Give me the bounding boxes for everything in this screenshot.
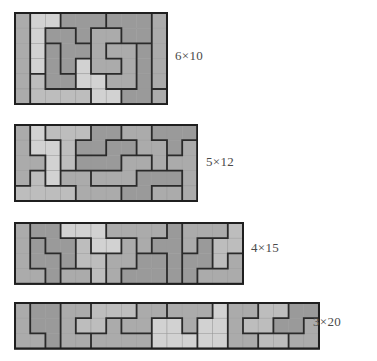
- tile-cell: [182, 318, 197, 333]
- tile-cell: [197, 253, 212, 268]
- tile-cell: [137, 140, 152, 155]
- tile-cell: [167, 303, 182, 318]
- tile-cell: [76, 253, 91, 268]
- tile-cell: [15, 269, 30, 284]
- tile-cell: [152, 13, 167, 28]
- tile-cell: [137, 333, 152, 348]
- tile-cell: [76, 59, 91, 74]
- tile-cell: [30, 125, 45, 140]
- tile-cell: [91, 59, 106, 74]
- tile-cell: [167, 238, 182, 253]
- tile-cell: [61, 13, 76, 28]
- tile-cell: [91, 333, 106, 348]
- tile-cell: [121, 13, 136, 28]
- tile-cell: [152, 303, 167, 318]
- tiling-size-label: 3×20: [313, 315, 341, 328]
- tile-cell: [76, 155, 91, 170]
- tile-cell: [45, 140, 60, 155]
- tile-cell: [91, 171, 106, 186]
- tile-cell: [106, 223, 121, 238]
- tiling-grid-3x20: [14, 302, 320, 350]
- tile-cell: [30, 223, 45, 238]
- tile-cell: [121, 43, 136, 58]
- tile-cell: [228, 333, 243, 348]
- tile-cell: [15, 13, 30, 28]
- tile-cell: [243, 318, 258, 333]
- tile-cell: [106, 125, 121, 140]
- tile-cell: [61, 318, 76, 333]
- tile-cell: [152, 74, 167, 89]
- tile-cell: [91, 238, 106, 253]
- tile-cell: [182, 238, 197, 253]
- tile-cell: [45, 43, 60, 58]
- tile-cell: [76, 89, 91, 104]
- tiling-grid-4x15: [14, 222, 244, 285]
- tile-cell: [182, 171, 197, 186]
- tile-cell: [121, 186, 136, 201]
- tile-cell: [137, 125, 152, 140]
- tile-cell: [182, 303, 197, 318]
- tile-cell: [106, 186, 121, 201]
- tile-cell: [106, 171, 121, 186]
- tile-cell: [15, 318, 30, 333]
- tile-cell: [76, 269, 91, 284]
- tile-cell: [15, 155, 30, 170]
- tile-cell: [61, 155, 76, 170]
- tile-cell: [137, 74, 152, 89]
- tile-cell: [182, 125, 197, 140]
- tile-cell: [121, 74, 136, 89]
- tile-cell: [228, 269, 243, 284]
- tile-cell: [152, 140, 167, 155]
- tile-cell: [258, 318, 273, 333]
- tile-cell: [228, 253, 243, 268]
- tile-cell: [152, 43, 167, 58]
- tile-cell: [182, 333, 197, 348]
- tile-cell: [91, 125, 106, 140]
- tile-cell: [137, 318, 152, 333]
- tile-cell: [91, 318, 106, 333]
- tile-cell: [15, 171, 30, 186]
- tile-cell: [273, 333, 288, 348]
- tile-cell: [121, 171, 136, 186]
- tile-cell: [152, 318, 167, 333]
- tile-cell: [45, 171, 60, 186]
- tile-cell: [30, 303, 45, 318]
- tile-cell: [137, 186, 152, 201]
- tile-cell: [152, 125, 167, 140]
- tile-cell: [106, 333, 121, 348]
- tile-cell: [91, 269, 106, 284]
- tile-cell: [137, 303, 152, 318]
- tile-cell: [61, 269, 76, 284]
- tile-cell: [152, 269, 167, 284]
- tiling-grid-6x10: [14, 12, 168, 105]
- tile-cell: [121, 333, 136, 348]
- tile-cell: [76, 43, 91, 58]
- tile-cell: [228, 303, 243, 318]
- tile-cell: [137, 171, 152, 186]
- tile-cell: [137, 269, 152, 284]
- tile-cell: [197, 269, 212, 284]
- tile-cell: [45, 28, 60, 43]
- tile-cell: [30, 186, 45, 201]
- tile-cell: [45, 186, 60, 201]
- tile-cell: [45, 318, 60, 333]
- tile-cell: [30, 28, 45, 43]
- tile-cell: [106, 238, 121, 253]
- tile-cell: [106, 28, 121, 43]
- tile-cell: [167, 333, 182, 348]
- tile-cell: [30, 333, 45, 348]
- tile-cell: [137, 155, 152, 170]
- tile-cell: [45, 125, 60, 140]
- tile-cell: [15, 43, 30, 58]
- tile-cell: [152, 223, 167, 238]
- tile-cell: [61, 28, 76, 43]
- tile-cell: [137, 13, 152, 28]
- tile-cell: [213, 333, 228, 348]
- tile-cell: [137, 59, 152, 74]
- tile-cell: [45, 13, 60, 28]
- tile-cell: [76, 140, 91, 155]
- tile-cell: [76, 223, 91, 238]
- tile-cell: [45, 303, 60, 318]
- tile-cell: [61, 140, 76, 155]
- tile-cell: [213, 303, 228, 318]
